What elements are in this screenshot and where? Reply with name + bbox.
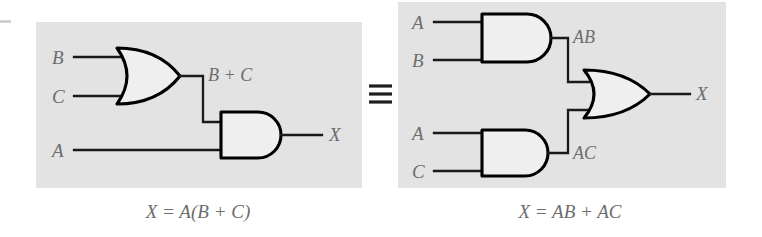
and-gate-left: [221, 112, 281, 158]
and-gate-top-right: [482, 14, 551, 62]
label-intermediate-ab: AB: [572, 27, 595, 47]
label-output-x-left: X: [328, 124, 342, 145]
caption-left: X = A(B + C): [145, 201, 250, 223]
label-intermediate-ac: AC: [572, 143, 597, 163]
left-circuit-panel: [36, 22, 362, 188]
and-gate-bottom-right: [482, 130, 548, 176]
label-input-a: A: [50, 140, 64, 161]
label-input-b: B: [52, 47, 64, 68]
equivalence-symbol: [369, 86, 392, 102]
label-input-c-bottom: C: [412, 161, 425, 182]
label-output-x-right: X: [695, 83, 709, 104]
logic-equivalence-figure: B C A B + C X X = A(B + C): [0, 0, 762, 237]
label-input-a-bottom: A: [410, 123, 424, 144]
circuit-diagram-svg: B C A B + C X X = A(B + C): [0, 0, 762, 237]
label-input-c: C: [52, 86, 65, 107]
caption-right: X = AB + AC: [517, 201, 621, 222]
label-input-b-top: B: [412, 50, 424, 71]
label-intermediate-b-plus-c: B + C: [208, 65, 253, 85]
label-input-a-top: A: [410, 12, 424, 33]
